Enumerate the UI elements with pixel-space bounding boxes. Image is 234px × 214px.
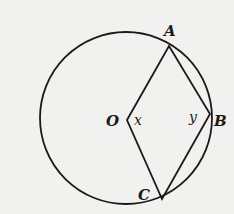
label-point-a: A xyxy=(162,22,176,40)
label-point-b: B xyxy=(213,112,227,130)
label-angle-y: y xyxy=(188,109,198,125)
label-point-o: O xyxy=(106,112,119,130)
label-point-c: C xyxy=(138,186,150,204)
label-angle-x: x xyxy=(134,112,142,128)
circle-diagram: A O B C x y xyxy=(0,0,234,214)
circle xyxy=(40,32,212,204)
